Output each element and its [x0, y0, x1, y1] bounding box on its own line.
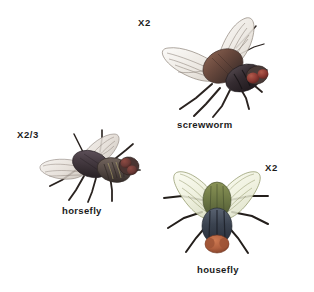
- horsefly-illustration: [36, 122, 146, 204]
- housefly-eye-left: [205, 238, 214, 248]
- horsefly-name-label: horsefly: [62, 206, 102, 216]
- screwworm-eye-right: [258, 69, 269, 79]
- specimen-horsefly: [36, 122, 146, 204]
- horsefly-eye-right: [127, 165, 137, 174]
- specimen-housefly: [158, 156, 278, 262]
- horsefly-magnification-label: X2/3: [17, 130, 39, 140]
- screwworm-eye-left: [247, 73, 259, 84]
- housefly-name-label: housefly: [197, 265, 239, 275]
- housefly-head: [205, 235, 229, 253]
- screwworm-name-label: screwworm: [177, 120, 232, 130]
- screwworm-magnification-label: X2: [138, 18, 151, 28]
- specimen-screwworm: [150, 14, 275, 124]
- fly-identification-plate: X2 screwworm: [0, 0, 314, 292]
- housefly-magnification-label: X2: [265, 163, 278, 173]
- screwworm-illustration: [150, 14, 275, 124]
- housefly-eye-right: [219, 238, 228, 248]
- housefly-illustration: [158, 156, 278, 262]
